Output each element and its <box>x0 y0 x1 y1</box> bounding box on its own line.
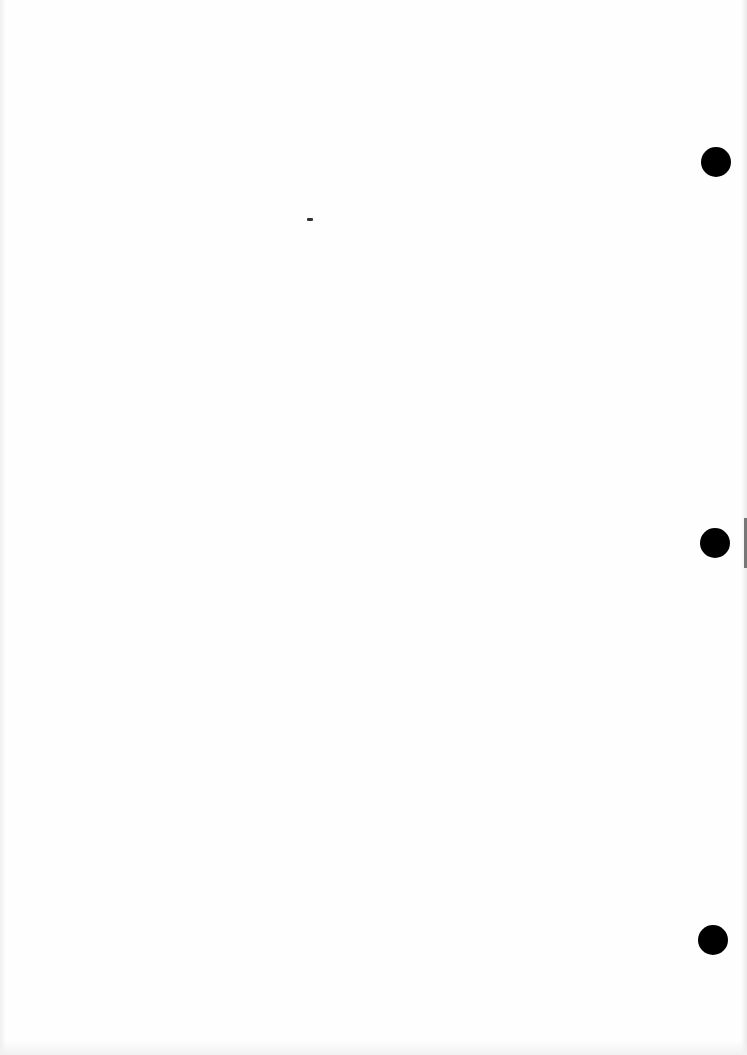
bottom-edge-shadow <box>0 1041 747 1055</box>
blank-page <box>0 0 747 1055</box>
punch-hole-bottom <box>698 925 728 955</box>
punch-hole-top <box>701 147 731 177</box>
left-edge-shadow <box>0 0 6 1055</box>
punch-hole-middle <box>700 528 730 558</box>
scan-speck <box>307 218 313 221</box>
